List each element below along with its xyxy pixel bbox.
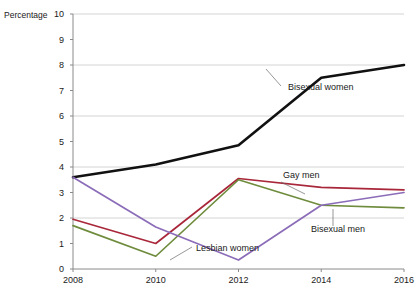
y-tick-label-3: 3 bbox=[59, 188, 64, 198]
x-tick-label-2012: 2012 bbox=[228, 275, 248, 285]
y-tick-label-2: 2 bbox=[59, 213, 64, 223]
y-tick-label-5: 5 bbox=[59, 137, 64, 147]
x-tick-label-2016: 2016 bbox=[394, 275, 414, 285]
line-chart: 012345678910Percentage200820102012201420… bbox=[0, 0, 415, 294]
chart-container: 012345678910Percentage200820102012201420… bbox=[0, 0, 415, 294]
y-tick-label-9: 9 bbox=[59, 35, 64, 45]
y-tick-label-4: 4 bbox=[59, 162, 64, 172]
y-tick-label-10: 10 bbox=[54, 9, 64, 19]
series-label-bisexual-women: Bisexual women bbox=[288, 82, 354, 92]
y-tick-label-1: 1 bbox=[59, 239, 64, 249]
series-label-gay-men: Gay men bbox=[283, 170, 320, 180]
y-tick-label-0: 0 bbox=[59, 264, 64, 274]
x-tick-label-2008: 2008 bbox=[63, 275, 83, 285]
series-label-lesbian-women: Lesbian women bbox=[196, 243, 259, 253]
y-axis-title: Percentage bbox=[4, 10, 48, 20]
leader-line-lesbian-women bbox=[170, 247, 192, 260]
series-label-bisexual-men: Bisexual men bbox=[311, 224, 365, 234]
leader-line-bisexual-women bbox=[266, 69, 281, 86]
y-tick-label-8: 8 bbox=[59, 60, 64, 70]
x-tick-label-2014: 2014 bbox=[311, 275, 331, 285]
y-tick-label-6: 6 bbox=[59, 111, 64, 121]
y-tick-label-7: 7 bbox=[59, 86, 64, 96]
x-tick-label-2010: 2010 bbox=[146, 275, 166, 285]
series-line-bisexual-women bbox=[73, 65, 404, 177]
